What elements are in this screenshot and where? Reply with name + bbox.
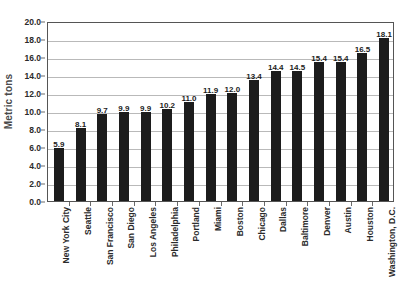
x-axis-tick-label: Boston [235, 207, 245, 236]
x-axis-tick-label: Portland [191, 207, 201, 241]
bar [379, 38, 389, 201]
y-axis-tick-mark [41, 76, 45, 77]
x-axis-tick-label: San Diego [126, 207, 136, 249]
x-axis-tick-mark [112, 202, 113, 206]
x-axis-tick-mark [90, 202, 91, 206]
y-axis-tick-labels: 0.02.04.06.08.010.012.014.016.018.020.0 [16, 22, 45, 202]
plot-area: 5.98.19.79.99.910.211.011.912.013.414.41… [47, 22, 394, 202]
bar-value-label: 11.0 [181, 94, 196, 104]
x-axis-tick-mark [351, 202, 352, 206]
x-axis-tick-label: Miami [213, 207, 223, 231]
bar [314, 62, 324, 201]
x-axis-tick-label: Denver [322, 207, 332, 236]
x-axis-tick-label: Washington, D.C. [387, 207, 397, 277]
bar-value-label: 13.4 [246, 72, 262, 82]
y-axis-tick-label: 16.0 [24, 53, 41, 63]
x-axis-tick-mark [242, 202, 243, 206]
x-axis-tick-mark [372, 202, 373, 206]
y-axis-tick-label: 6.0 [29, 143, 41, 153]
x-axis-tick-label: Chicago [257, 207, 267, 241]
x-axis-tick-label: New York City [61, 207, 71, 263]
bar-value-label: 18.1 [376, 30, 392, 40]
bar-value-label: 9.9 [140, 104, 151, 114]
bar-value-label: 14.5 [290, 63, 306, 73]
bar [54, 148, 64, 201]
bar [141, 112, 151, 201]
bar-value-label: 15.4 [333, 54, 349, 64]
bar-value-label: 10.2 [159, 101, 175, 111]
bar [292, 71, 302, 202]
bar-value-label: 9.9 [118, 104, 129, 114]
bar-value-label: 15.4 [311, 54, 327, 64]
bar [119, 112, 129, 201]
y-axis-tick-label: 0.0 [29, 197, 41, 207]
y-axis-tick-mark [41, 94, 45, 95]
x-axis-tick-label: Houston [365, 207, 375, 241]
y-axis-tick-mark [41, 130, 45, 131]
y-axis-title-text: Metric tons [4, 73, 15, 129]
x-axis-tick-label: Austin [343, 207, 353, 233]
x-axis-tick-mark [307, 202, 308, 206]
y-axis-tick-label: 10.0 [24, 107, 41, 117]
bar [184, 102, 194, 201]
bar [76, 128, 86, 201]
x-axis-tick-mark [134, 202, 135, 206]
x-axis-tick-mark [199, 202, 200, 206]
x-axis-tick-labels: New York CitySeattleSan FranciscoSan Die… [47, 207, 394, 295]
bar-value-label: 11.9 [203, 86, 218, 96]
bar [357, 53, 367, 202]
x-axis-tick-mark [286, 202, 287, 206]
y-axis-tick-label: 4.0 [29, 161, 41, 171]
x-axis-tick-mark [69, 202, 70, 206]
y-axis-tick-mark [41, 112, 45, 113]
y-axis-tick-mark [41, 184, 45, 185]
x-axis-tick-label: Seattle [83, 207, 93, 235]
bar [271, 71, 281, 201]
x-axis-tick-label: San Francisco [105, 207, 115, 265]
bar [162, 109, 172, 201]
y-axis-tick-label: 18.0 [24, 35, 41, 45]
y-axis-tick-label: 2.0 [29, 179, 41, 189]
x-axis-tick-marks [47, 202, 394, 206]
bar-chart: Metric tons 0.02.04.06.08.010.012.014.01… [0, 0, 417, 296]
bar-value-label: 8.1 [75, 120, 86, 130]
x-axis-tick-mark [221, 202, 222, 206]
bar-value-label: 5.9 [53, 140, 64, 150]
bar [336, 62, 346, 201]
bar-value-label: 9.7 [97, 106, 108, 116]
y-axis-tick-mark [41, 40, 45, 41]
y-axis-tick-mark [41, 148, 45, 149]
bar-value-label: 16.5 [355, 45, 371, 55]
y-axis-tick-label: 14.0 [24, 71, 41, 81]
bar [206, 94, 216, 201]
y-axis-tick-mark [41, 202, 45, 203]
bars-layer: 5.98.19.79.99.910.211.011.912.013.414.41… [48, 23, 393, 201]
x-axis-tick-label: Los Angeles [148, 207, 158, 257]
x-axis-tick-mark [264, 202, 265, 206]
bar [249, 80, 259, 201]
x-axis-tick-label: Philadelphia [170, 207, 180, 257]
bar-value-label: 12.0 [225, 85, 241, 95]
x-axis-tick-label: Dallas [278, 207, 288, 232]
bar [97, 114, 107, 201]
y-axis-tick-label: 12.0 [24, 89, 41, 99]
x-axis-tick-mark [329, 202, 330, 206]
x-axis-tick-mark [177, 202, 178, 206]
y-axis-tick-mark [41, 58, 45, 59]
x-axis-tick-label: Baltimore [300, 207, 310, 246]
x-axis-tick-mark [155, 202, 156, 206]
y-axis-tick-label: 8.0 [29, 125, 41, 135]
bar [227, 93, 237, 201]
y-axis-tick-mark [41, 22, 45, 23]
bar-value-label: 14.4 [268, 63, 284, 73]
y-axis-tick-label: 20.0 [24, 17, 41, 27]
y-axis-tick-mark [41, 166, 45, 167]
